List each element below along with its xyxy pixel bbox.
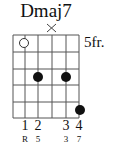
finger-number: 4 (76, 119, 83, 133)
chord-grid (0, 0, 115, 147)
finger-number: 1 (22, 119, 29, 133)
muted-string-icon (47, 24, 56, 32)
finger-number: 2 (35, 119, 42, 133)
interval-label: R (22, 135, 28, 144)
finger-number: 3 (63, 119, 70, 133)
interval-label: 3 (64, 135, 69, 144)
interval-label: 5 (36, 135, 41, 144)
open-marker-icon (20, 39, 29, 48)
interval-label: 7 (77, 135, 82, 144)
fret-position-label: 5fr. (84, 34, 104, 50)
finger-dot (75, 105, 85, 115)
finger-dot (61, 72, 71, 82)
finger-dot (33, 72, 43, 82)
